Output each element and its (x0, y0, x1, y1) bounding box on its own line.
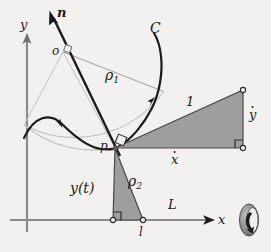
center-of-curvature-label: o (52, 45, 59, 57)
normal-vector-label: n (57, 6, 66, 19)
velocity-triangle (115, 87, 246, 150)
y-axis-label: y (20, 18, 27, 31)
figure-canvas (0, 0, 271, 252)
rho2-label: ρ2 (128, 174, 142, 188)
geometry-figure: y x n o C ρ1 ρ2 p l 1 y x y(t) L (0, 0, 271, 252)
x-dot-label: x (171, 153, 178, 166)
y-dot-label: y (249, 108, 256, 121)
unit-speed-label: 1 (186, 95, 194, 108)
rho1-subscript: 1 (113, 74, 119, 85)
x-dot-glyph: x (171, 153, 178, 166)
rolling-wheel-icon (240, 204, 259, 236)
rho2-glyph: ρ (128, 173, 136, 189)
rho1-label: ρ1 (105, 68, 119, 82)
rho1-glyph: ρ (105, 67, 113, 83)
x-axis-label: x (218, 213, 225, 226)
y-dot-glyph: y (249, 108, 256, 121)
ground-point-label: l (139, 226, 143, 238)
curve-label: C (150, 21, 161, 35)
height-function-label: y(t) (70, 181, 94, 195)
curve-c (24, 33, 162, 150)
length-label: L (168, 198, 177, 211)
normal-vector (49, 11, 120, 157)
rho2-subscript: 2 (136, 180, 142, 191)
contact-point-label: p (100, 140, 108, 152)
